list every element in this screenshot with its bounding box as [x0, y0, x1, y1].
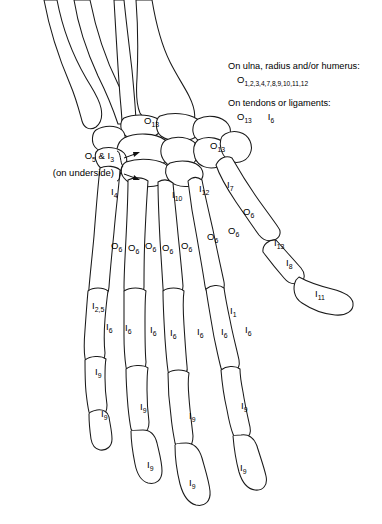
bone-label-subscript: 9 [243, 468, 247, 475]
bone-label-subscript: 6 [251, 212, 255, 219]
underside-code-o: O [85, 150, 92, 161]
bone-label-i9-h: I9 [240, 463, 247, 476]
bone-label-i4-mc5: I4 [111, 187, 118, 200]
hand-skeleton-figure: O5 & I3 (on underside) On ulna, radius a… [0, 0, 382, 524]
bone-label-i6-c: I6 [150, 325, 157, 338]
bone-label-subscript: 6 [153, 246, 157, 253]
index-distal-phalanx [233, 435, 266, 490]
bone-label-o13-hamate: O13 [210, 141, 225, 154]
bone-label-i9-b: I9 [101, 409, 108, 422]
underside-codes: O5 & I3 [28, 150, 114, 166]
bone-label-subscript: 1 [233, 311, 237, 318]
bone-label-i6-e: I6 [197, 327, 204, 340]
bone-label-o6-e: O6 [181, 241, 192, 254]
bone-label-subscript: 11 [318, 294, 325, 301]
metacarpal-1 [216, 157, 280, 241]
bone-label-subscript: 6 [224, 332, 228, 339]
bone-label-subscript: 6 [173, 333, 177, 340]
bone-label-subscript: 9 [192, 483, 196, 490]
bone-label-letter: O [207, 231, 215, 242]
bone-label-i6-a: I6 [106, 322, 113, 335]
bone-label-i9-a: I9 [95, 367, 102, 380]
bone-label-subscript: 9 [150, 465, 154, 472]
bone-label-subscript: 6 [136, 248, 140, 255]
arrow-line-top [124, 154, 135, 158]
bone-label-subscript: 6 [236, 231, 240, 238]
bone-label-subscript: 9 [98, 372, 102, 379]
bone-label-subscript: 9 [104, 414, 108, 421]
bone-label-o6-b: O6 [128, 243, 139, 256]
bone-label-subscript: 6 [170, 248, 174, 255]
bone-label-letter: O [128, 242, 136, 253]
bone-label-subscript: 6 [119, 246, 123, 253]
bone-label-o6-d: O6 [162, 243, 173, 256]
bone-label-letter: O [144, 115, 152, 126]
bone-label-letter: O [145, 240, 153, 251]
bone-label-o6-thumb-prox: O6 [243, 207, 254, 220]
arrow-head-bottom [133, 175, 140, 180]
bone-label-letter: O [162, 242, 170, 253]
bone-label-i25-pinky: I2,5 [92, 301, 104, 314]
pinky-proximal-phalanx [84, 288, 108, 365]
ring-distal-phalanx [131, 430, 162, 483]
bone-label-i9-d: I9 [189, 411, 196, 424]
bone-label-subscript: 6 [200, 332, 204, 339]
legend-codes-tendons: O13I6 [228, 110, 380, 127]
bone-label-i9-f: I9 [147, 460, 154, 473]
bone-label-letter: O [181, 240, 189, 251]
bone-label-subscript: 2,5 [95, 306, 105, 313]
bone-label-subscript: 9 [143, 407, 147, 414]
bone-label-i6-g: I6 [245, 325, 252, 338]
legend-code-i6-sub: 6 [270, 117, 274, 124]
bone-label-subscript: 6 [248, 330, 252, 337]
bone-label-i9-c: I9 [140, 402, 147, 415]
bone-label-o13-capitate: O13 [144, 116, 159, 129]
middle-distal-phalanx [175, 443, 210, 505]
bone-label-subscript: 9 [244, 406, 248, 413]
bone-label-i9-g: I9 [189, 478, 196, 491]
bone-label-o6-a: O6 [111, 241, 122, 254]
bone-label-letter: O [210, 140, 218, 151]
bone-label-subscript: 4 [114, 192, 118, 199]
bone-label-i13-thumb: I13 [274, 238, 284, 251]
bone-label-subscript: 12 [202, 189, 210, 196]
bone-label-subscript: 6 [109, 327, 113, 334]
metacarpal-4 [124, 178, 148, 298]
legend-codes-bones: O1,2,3,4,7,8,9,10,11,12 [228, 73, 380, 90]
bone-label-i6-f: I6 [221, 327, 228, 340]
bone-label-subscript: 6 [128, 328, 132, 335]
brace-with-arrows [114, 149, 142, 183]
bone-label-subscript: 6 [189, 246, 193, 253]
bone-label-letter: O [111, 240, 119, 251]
bone-label-subscript: 8 [289, 263, 293, 270]
bone-label-i10-mc3: I10 [172, 190, 182, 203]
bone-label-i6-b: I6 [125, 323, 132, 336]
bone-label-subscript: 13 [277, 243, 285, 250]
bone-label-letter: O [243, 206, 251, 217]
legend-code-o13-sub: 13 [244, 117, 251, 124]
bone-label-i7-mc1: I7 [227, 180, 234, 193]
underside-annotation: O5 & I3 (on underside) [28, 150, 114, 179]
legend-heading-bones: On ulna, radius and/or humerus: [228, 60, 380, 73]
bone-label-letter: O [228, 225, 236, 236]
bone-label-i9-e: I9 [241, 401, 248, 414]
bone-label-subscript: 6 [215, 237, 219, 244]
bone-label-i8-thumb: I8 [286, 258, 293, 271]
arrow-line-bottom [124, 174, 135, 178]
underside-caption: (on underside) [28, 166, 114, 179]
bone-label-subscript: 13 [218, 146, 226, 153]
ring-middle-phalanx [126, 365, 149, 434]
curly-brace [117, 151, 123, 181]
bone-label-subscript: 9 [192, 416, 196, 423]
bone-label-subscript: 10 [175, 195, 183, 202]
bone-label-subscript: 6 [153, 330, 157, 337]
distal-radius [136, 0, 195, 132]
underside-amp: & [96, 150, 108, 161]
bone-label-subscript: 13 [152, 121, 160, 128]
legend-heading-tendons: On tendons or ligaments: [228, 97, 380, 110]
bone-label-o6-c: O6 [145, 241, 156, 254]
bone-label-i6-d: I6 [170, 328, 177, 341]
bone-label-i1-index: I1 [230, 306, 237, 319]
legend-spacer [228, 90, 380, 97]
bone-label-subscript: 7 [230, 185, 234, 192]
